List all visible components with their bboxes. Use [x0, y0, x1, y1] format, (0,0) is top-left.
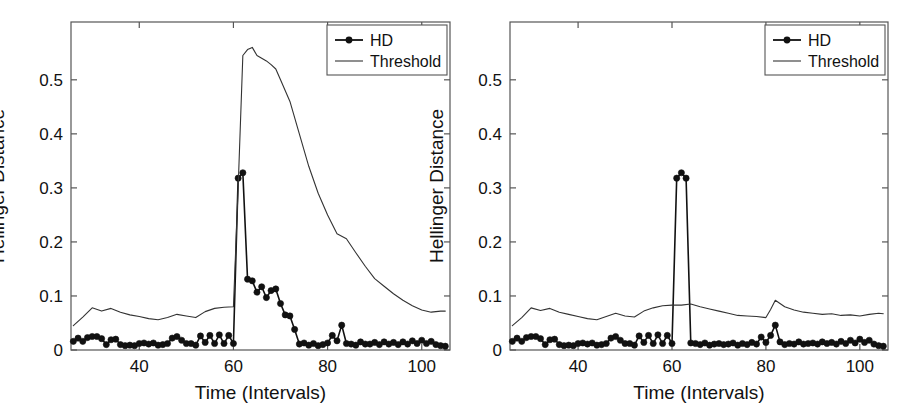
series-marker-hd — [226, 332, 232, 338]
y-tick-label: 0.4 — [39, 125, 63, 144]
y-tick-label: 0.3 — [39, 179, 63, 198]
series-line-threshold — [73, 47, 445, 325]
series-marker-hd — [277, 300, 283, 306]
series-marker-hd — [339, 322, 345, 328]
series-marker-hd — [542, 342, 548, 348]
y-tick-label: 0.1 — [39, 287, 63, 306]
series-marker-hd — [212, 340, 218, 346]
plot-area-right: 40608010000.10.20.30.40.5HDThreshold — [478, 22, 888, 376]
series-marker-hd — [669, 340, 675, 346]
series-line-threshold — [512, 300, 883, 325]
series-marker-hd — [678, 170, 684, 176]
plot-svg-right: 40608010000.10.20.30.40.5HDThreshold — [452, 0, 905, 420]
legend-label-hd: HD — [370, 32, 393, 49]
series-marker-hd — [254, 289, 260, 295]
y-tick-label: 0.2 — [478, 233, 502, 252]
series-marker-hd — [636, 333, 642, 339]
plot-svg-left: 40608010000.10.20.30.40.5HDThreshold — [0, 0, 452, 420]
series-marker-hd — [763, 339, 769, 345]
series-marker-hd — [259, 284, 265, 290]
series-marker-hd — [758, 334, 764, 340]
series-line-hd — [73, 173, 445, 346]
legend-label-threshold: Threshold — [808, 53, 879, 70]
series-marker-hd — [287, 313, 293, 319]
series-marker-hd — [641, 339, 647, 345]
series-marker-hd — [202, 339, 208, 345]
series-marker-hd — [329, 332, 335, 338]
series-marker-hd — [324, 340, 330, 346]
series-marker-hd — [99, 336, 105, 342]
y-tick-label: 0 — [54, 341, 63, 360]
series-marker-hd — [768, 332, 774, 338]
y-axis-label-right: Hellinger Distance — [426, 109, 448, 263]
series-marker-hd — [230, 340, 236, 346]
legend-marker-icon — [346, 37, 353, 44]
plot-area-left: 40608010000.10.20.30.40.5HDThreshold — [39, 22, 450, 376]
y-tick-label: 0.3 — [478, 179, 502, 198]
legend-label-threshold: Threshold — [370, 53, 441, 70]
x-tick-label: 40 — [569, 357, 588, 376]
y-axis-label-left: Hellinger Distance — [0, 109, 9, 263]
y-tick-label: 0.5 — [39, 71, 63, 90]
series-marker-hd — [221, 340, 227, 346]
y-tick-label: 0.2 — [39, 233, 63, 252]
series-marker-hd — [193, 342, 199, 348]
x-axis-label-left: Time (Intervals) — [71, 382, 450, 404]
chart-panel-left: 40608010000.10.20.30.40.5HDThreshold Hel… — [0, 0, 452, 420]
x-tick-label: 100 — [408, 357, 436, 376]
x-tick-label: 60 — [224, 357, 243, 376]
series-marker-hd — [603, 340, 609, 346]
x-tick-label: 60 — [663, 357, 682, 376]
series-marker-hd — [674, 175, 680, 181]
y-tick-label: 0.1 — [478, 287, 502, 306]
y-tick-label: 0.4 — [478, 125, 502, 144]
y-tick-label: 0.5 — [478, 71, 502, 90]
series-marker-hd — [240, 170, 246, 176]
series-marker-hd — [645, 332, 651, 338]
legend-marker-icon — [784, 37, 791, 44]
x-tick-label: 80 — [756, 357, 775, 376]
series-marker-hd — [197, 333, 203, 339]
series-marker-hd — [292, 326, 298, 332]
series-marker-hd — [216, 332, 222, 338]
series-marker-hd — [273, 286, 279, 292]
series-marker-hd — [113, 336, 119, 342]
series-marker-hd — [683, 175, 689, 181]
x-tick-label: 40 — [130, 357, 149, 376]
series-marker-hd — [772, 322, 778, 328]
series-marker-hd — [664, 332, 670, 338]
series-line-hd — [512, 173, 883, 346]
figure-container: 40608010000.10.20.30.40.5HDThreshold Hel… — [0, 0, 905, 420]
series-marker-hd — [552, 336, 558, 342]
series-marker-hd — [660, 340, 666, 346]
y-tick-label: 0 — [493, 341, 502, 360]
series-marker-hd — [249, 278, 255, 284]
x-tick-label: 80 — [318, 357, 337, 376]
series-marker-hd — [537, 336, 543, 342]
series-marker-hd — [334, 338, 340, 344]
series-marker-hd — [164, 340, 170, 346]
series-marker-hd — [207, 332, 213, 338]
series-marker-hd — [655, 332, 661, 338]
series-marker-hd — [631, 342, 637, 348]
series-marker-hd — [650, 340, 656, 346]
legend-label-hd: HD — [808, 32, 831, 49]
series-marker-hd — [442, 343, 448, 349]
series-marker-hd — [880, 343, 886, 349]
x-axis-label-right: Time (Intervals) — [510, 382, 888, 404]
series-marker-hd — [263, 294, 269, 300]
series-marker-hd — [753, 341, 759, 347]
series-marker-hd — [103, 342, 109, 348]
chart-panel-right: 40608010000.10.20.30.40.5HDThreshold Hel… — [452, 0, 905, 420]
x-tick-label: 100 — [846, 357, 874, 376]
